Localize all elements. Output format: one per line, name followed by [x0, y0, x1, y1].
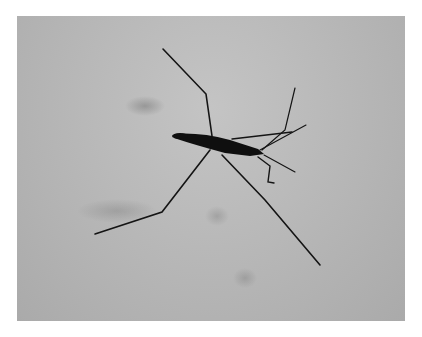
water-strider-insect [0, 0, 422, 337]
